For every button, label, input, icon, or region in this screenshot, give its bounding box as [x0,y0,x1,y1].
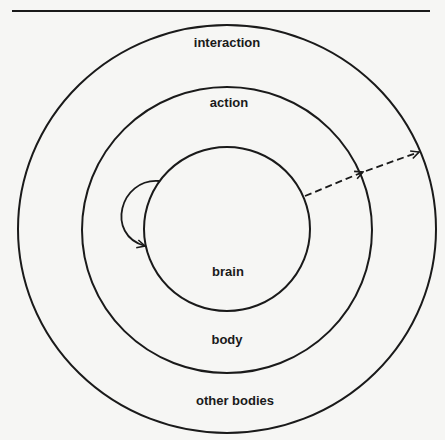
inner-circle-brain [144,147,310,311]
label-body: body [211,332,243,347]
label-interaction: interaction [194,35,261,50]
label-brain: brain [212,264,244,279]
label-action: action [210,95,248,110]
label-other-bodies: other bodies [196,393,274,408]
middle-circle-action [82,87,372,373]
dashed-arrow-to-outer [366,152,419,171]
dashed-arrow-to-middle [305,172,363,196]
nested-circles-diagram: interaction action brain body other bodi… [0,0,445,440]
